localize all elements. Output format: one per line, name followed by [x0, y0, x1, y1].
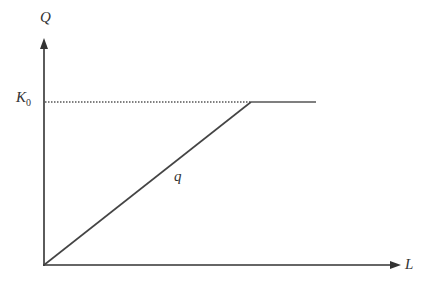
- capacity-label: K0: [16, 89, 31, 108]
- y-axis-arrow-icon: [40, 38, 48, 49]
- output-line-q: [44, 102, 251, 265]
- capacity-label-sub: 0: [26, 97, 31, 108]
- capacity-label-main: K: [16, 89, 26, 105]
- line-label-q: q: [174, 168, 182, 185]
- y-axis-label: Q: [40, 9, 51, 26]
- production-diagram: [0, 0, 431, 284]
- x-axis-label: L: [405, 256, 413, 273]
- x-axis-arrow-icon: [390, 261, 401, 269]
